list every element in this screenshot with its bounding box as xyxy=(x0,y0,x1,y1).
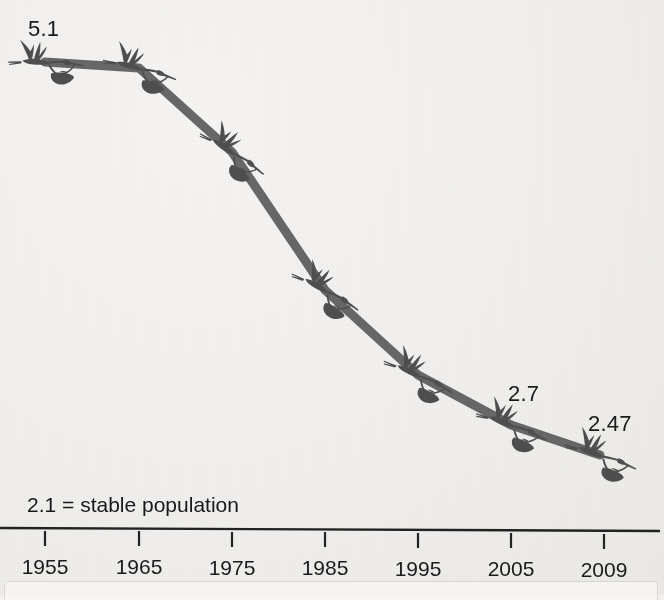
x-tick-label-1965: 1965 xyxy=(116,556,163,577)
data-label-1955: 5.1 xyxy=(28,18,59,40)
bottom-panel-edge xyxy=(4,581,658,600)
data-label-2009: 2.47 xyxy=(588,413,632,435)
x-tick-label-1955: 1955 xyxy=(22,556,69,577)
stable-population-note: 2.1 = stable population xyxy=(27,494,239,515)
data-label-2005: 2.7 xyxy=(508,383,539,405)
x-axis xyxy=(0,528,660,549)
x-tick-label-2009: 2009 xyxy=(581,559,628,580)
data-point-markers xyxy=(7,38,644,488)
x-tick-label-1995: 1995 xyxy=(395,558,442,579)
x-tick-label-1985: 1985 xyxy=(302,557,349,578)
x-tick-label-1975: 1975 xyxy=(209,557,256,578)
x-tick-label-2005: 2005 xyxy=(488,558,535,579)
x-axis-ticks xyxy=(45,531,604,549)
